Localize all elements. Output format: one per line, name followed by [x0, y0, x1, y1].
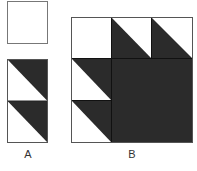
part-a-triangle-strip [8, 60, 48, 143]
label-a: A [18, 148, 38, 160]
quilt-diagram [0, 0, 197, 171]
part-b-dark-square [112, 59, 193, 143]
part-a-plain-square [8, 2, 48, 44]
label-b: B [122, 148, 142, 160]
part-b-block [72, 18, 193, 143]
